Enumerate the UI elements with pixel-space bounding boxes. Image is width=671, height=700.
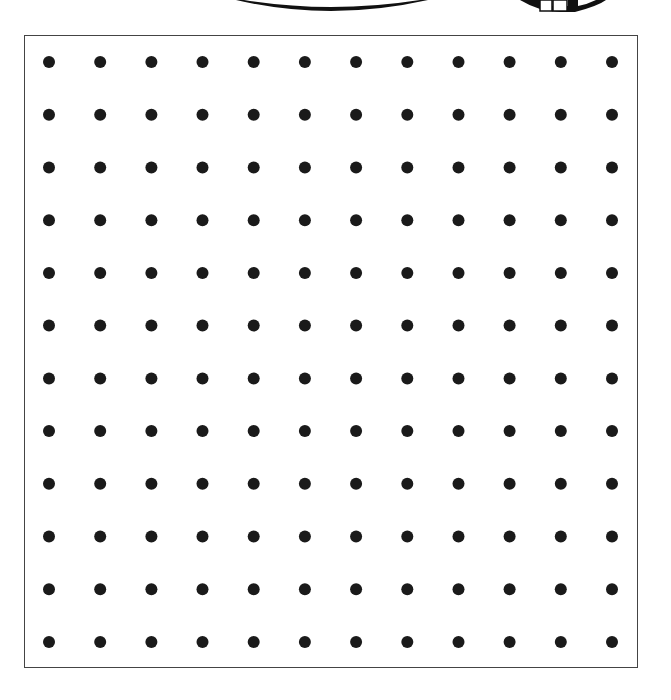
grid-dot (453, 267, 465, 279)
grid-dot (401, 214, 413, 226)
grid-dot (504, 267, 516, 279)
grid-dot (606, 425, 618, 437)
grid-dot (350, 583, 362, 595)
grid-dot (145, 425, 157, 437)
grid-dot (145, 214, 157, 226)
grid-dot (504, 56, 516, 68)
grid-dot (299, 162, 311, 174)
grid-dot (555, 531, 567, 543)
grid-dot (555, 109, 567, 121)
grid-dot (145, 636, 157, 648)
grid-dot (504, 583, 516, 595)
grid-dot (299, 636, 311, 648)
grid-dot (401, 267, 413, 279)
grid-dot (197, 372, 209, 384)
grid-dot (197, 583, 209, 595)
grid-dot (43, 267, 55, 279)
grid-dot (94, 425, 106, 437)
grid-dot (453, 636, 465, 648)
grid-dot (43, 56, 55, 68)
grid-dot (94, 267, 106, 279)
grid-dot (401, 478, 413, 490)
dot-grid (0, 0, 671, 700)
grid-dot (43, 478, 55, 490)
grid-dot (453, 425, 465, 437)
grid-dot (606, 162, 618, 174)
grid-dot (504, 425, 516, 437)
grid-dot (401, 372, 413, 384)
grid-dot (197, 267, 209, 279)
grid-dot (504, 320, 516, 332)
grid-dot (197, 636, 209, 648)
grid-dot (197, 109, 209, 121)
grid-dot (197, 214, 209, 226)
grid-dot (401, 320, 413, 332)
grid-dot (555, 162, 567, 174)
grid-dot (606, 109, 618, 121)
grid-dot (401, 162, 413, 174)
grid-dot (606, 267, 618, 279)
grid-dot (43, 531, 55, 543)
grid-dot (350, 267, 362, 279)
grid-dot (555, 267, 567, 279)
grid-dot (504, 478, 516, 490)
grid-dot (299, 425, 311, 437)
grid-dot (504, 531, 516, 543)
grid-dot (401, 56, 413, 68)
grid-dot (350, 636, 362, 648)
grid-dot (248, 267, 260, 279)
grid-dot (248, 636, 260, 648)
grid-dot (145, 372, 157, 384)
grid-dot (555, 478, 567, 490)
grid-dot (145, 267, 157, 279)
grid-dot (43, 425, 55, 437)
grid-dot (248, 425, 260, 437)
grid-dot (606, 372, 618, 384)
grid-dot (504, 109, 516, 121)
grid-dot (248, 109, 260, 121)
grid-dot (555, 372, 567, 384)
grid-dot (453, 372, 465, 384)
grid-dot (299, 56, 311, 68)
grid-dot (197, 162, 209, 174)
grid-dot (401, 109, 413, 121)
grid-dot (94, 109, 106, 121)
grid-dot (248, 56, 260, 68)
grid-dot (606, 478, 618, 490)
grid-dot (145, 162, 157, 174)
grid-dot (606, 531, 618, 543)
grid-dot (606, 636, 618, 648)
grid-dot (350, 478, 362, 490)
grid-dot (606, 214, 618, 226)
grid-dot (453, 531, 465, 543)
grid-dot (504, 372, 516, 384)
grid-dot (248, 478, 260, 490)
grid-dot (145, 320, 157, 332)
grid-dot (94, 162, 106, 174)
grid-dot (453, 162, 465, 174)
grid-dot (299, 531, 311, 543)
grid-dot (299, 478, 311, 490)
grid-dot (555, 56, 567, 68)
grid-dot (350, 56, 362, 68)
grid-dot (299, 109, 311, 121)
grid-dot (248, 162, 260, 174)
grid-dot (401, 531, 413, 543)
grid-dot (350, 531, 362, 543)
grid-dot (248, 214, 260, 226)
grid-dot (453, 320, 465, 332)
grid-dot (504, 214, 516, 226)
grid-dot (145, 583, 157, 595)
grid-dot (401, 583, 413, 595)
grid-dot (555, 320, 567, 332)
grid-dot (43, 162, 55, 174)
grid-dot (453, 478, 465, 490)
grid-dot (401, 636, 413, 648)
grid-dot (555, 583, 567, 595)
grid-dot (299, 267, 311, 279)
grid-dot (145, 531, 157, 543)
grid-dot (606, 56, 618, 68)
grid-dot (43, 636, 55, 648)
grid-dot (299, 214, 311, 226)
grid-dot (606, 320, 618, 332)
